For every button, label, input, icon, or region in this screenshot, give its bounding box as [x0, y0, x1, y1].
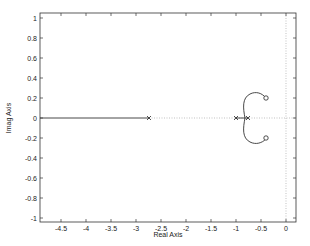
x-axis-label: Real Axis — [153, 231, 183, 238]
zero-o-icon — [264, 136, 268, 140]
x-tick-label: -1.5 — [205, 225, 217, 232]
y-tick-label: 0.4 — [27, 75, 37, 82]
y-tick-label: -0.8 — [25, 195, 37, 202]
y-axis-label: Imag Axis — [5, 102, 13, 133]
x-tick-label: -0.5 — [255, 225, 267, 232]
root-locus-plot: -4.5-4-3.5-3-2.5-2-1.5-1-0.50 10.80.60.4… — [0, 0, 310, 246]
y-tick-label: 0.8 — [27, 35, 37, 42]
zero-o-icon — [264, 96, 268, 100]
y-tick-label: -0.4 — [25, 155, 37, 162]
y-tick-label: 0.6 — [27, 55, 37, 62]
axes-box — [40, 13, 296, 222]
x-tick-label: -3.5 — [105, 225, 117, 232]
x-tick-label: -4.5 — [55, 225, 67, 232]
x-tick-label: -1 — [233, 225, 239, 232]
x-tick-label: -3 — [133, 225, 139, 232]
x-tick-label: 0 — [284, 225, 288, 232]
y-tick-label: 0.2 — [27, 95, 37, 102]
y-tick-label: -1 — [31, 215, 37, 222]
y-tick-label: 1 — [33, 15, 37, 22]
y-tick-label: -0.6 — [25, 175, 37, 182]
y-tick-label: 0 — [33, 115, 37, 122]
x-tick-label: -4 — [83, 225, 89, 232]
y-tick-label: -0.2 — [25, 135, 37, 142]
x-tick-label: -2 — [183, 225, 189, 232]
